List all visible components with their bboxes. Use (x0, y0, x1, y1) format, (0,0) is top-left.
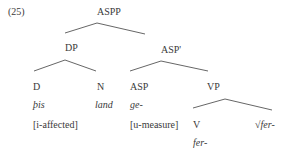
node-vp: VP (207, 81, 220, 93)
node-n: N (97, 81, 104, 93)
node-asp: ASP (130, 81, 148, 93)
word-asp: ge- (130, 99, 143, 111)
feature-d: [i-affected] (33, 119, 78, 131)
branch-vp-root (225, 99, 272, 110)
branch-aspbar-asp (130, 61, 161, 71)
word-n: land (95, 99, 113, 111)
branch-aspp-dp (65, 23, 97, 33)
node-asp-bar: ASP' (161, 44, 181, 56)
branch-vp-v (193, 99, 225, 108)
node-root: √fer- (255, 119, 275, 131)
branch-dp-n (65, 60, 96, 71)
node-dp: DP (65, 42, 78, 54)
feature-asp: [u-measure] (130, 119, 178, 131)
branch-aspp-aspbar (97, 23, 145, 34)
example-number: (25) (8, 6, 25, 18)
node-v: V (193, 119, 200, 131)
word-d: þis (33, 99, 45, 111)
tree-branches (0, 0, 291, 155)
word-v: fer- (193, 137, 207, 149)
branch-dp-d (34, 60, 65, 71)
branch-aspbar-vp (161, 61, 208, 71)
node-d: D (33, 81, 40, 93)
node-aspp: ASPP (97, 6, 121, 18)
